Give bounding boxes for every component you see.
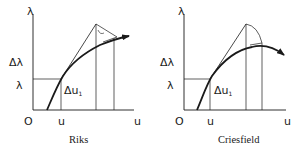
riks-delta-u-label: Δu1 (64, 85, 82, 99)
riks-panel (33, 14, 134, 110)
criesfield-caption: Criesfield (218, 134, 259, 145)
riks-lambda-label: λ (16, 80, 23, 91)
criesfield-origin-label: O (175, 116, 184, 127)
criesfield-corrector-step (250, 43, 262, 45)
criesfield-y-axis-label: λ (178, 6, 185, 17)
criesfield-delta-u-text: Δu (214, 84, 229, 97)
riks-delta-u-subscript: 1 (79, 90, 83, 97)
riks-normal-corrector (96, 24, 117, 37)
riks-equilibrium-curve (47, 36, 129, 110)
criesfield-cylindrical-arc (246, 24, 262, 43)
riks-tangent-predictor (61, 24, 96, 79)
riks-u-tick-label: u (58, 116, 65, 127)
criesfield-u-tick-label: u (207, 116, 214, 127)
riks-origin-label: O (24, 116, 33, 127)
criesfield-lambda-label: λ (167, 80, 174, 91)
arc-length-diagram (0, 0, 305, 151)
riks-y-axis-label: λ (27, 6, 34, 17)
riks-right-angle-mark (98, 30, 104, 34)
riks-caption: Riks (69, 134, 88, 145)
criesfield-x-axis-label: u (284, 116, 291, 127)
criesfield-panel (184, 14, 286, 110)
criesfield-delta-u-label: Δu1 (214, 85, 232, 99)
criesfield-delta-u-subscript: 1 (229, 90, 233, 97)
riks-delta-lambda-label: Δλ (9, 57, 23, 68)
criesfield-delta-lambda-label: Δλ (160, 57, 174, 68)
riks-x-axis-label: u (134, 116, 141, 127)
riks-delta-u-text: Δu (64, 84, 79, 97)
